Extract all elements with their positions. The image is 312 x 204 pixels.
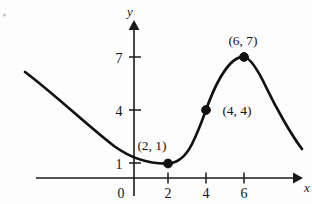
data-point-label-4-4: (4, 4) xyxy=(222,103,251,118)
data-point-label-2-1: (2, 1) xyxy=(137,138,166,153)
y-tick-label-1: 1 xyxy=(116,157,123,172)
y-axis-label: y xyxy=(125,4,133,19)
x-tick-label-4: 4 xyxy=(203,186,210,201)
data-point-6-7 xyxy=(240,53,249,62)
scan-speck xyxy=(3,13,6,16)
x-tick-label-6: 6 xyxy=(241,186,248,201)
y-tick-label-7: 7 xyxy=(116,51,123,66)
data-point-2-1 xyxy=(164,159,173,168)
data-point-4-4 xyxy=(202,106,211,115)
origin-label: 0 xyxy=(118,186,125,201)
y-tick-label-4: 4 xyxy=(116,104,123,119)
figure-background xyxy=(0,0,312,204)
x-axis-label: x xyxy=(303,180,310,195)
data-point-label-6-7: (6, 7) xyxy=(228,33,257,48)
x-tick-label-2: 2 xyxy=(165,186,172,201)
graph-figure: 7 4 1 0 2 4 6 y x (2, 1) (4, 4) (6, 7) xyxy=(0,0,312,204)
graph-svg: 7 4 1 0 2 4 6 y x (2, 1) (4, 4) (6, 7) xyxy=(0,0,312,204)
